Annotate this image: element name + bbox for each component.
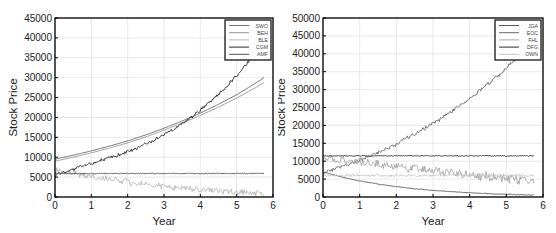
- x-tick-label: 5: [504, 200, 510, 211]
- legend-label: BLE: [258, 37, 268, 43]
- y-tick-label: 30000: [292, 84, 320, 95]
- series-line-dfg: [323, 155, 534, 156]
- x-tick-label: 1: [357, 200, 363, 211]
- x-axis-label: Year: [421, 215, 444, 227]
- y-tick-label: 10000: [24, 152, 52, 163]
- y-tick-label: 5000: [298, 174, 321, 185]
- x-tick-label: 3: [161, 200, 167, 211]
- chart-left: 0123456050001000015000200002500030000350…: [0, 0, 278, 233]
- legend-label: CGM: [256, 44, 268, 50]
- series-line-amf: [55, 173, 264, 174]
- legend-label: BEH: [257, 30, 268, 36]
- x-tick-label: 6: [540, 200, 546, 211]
- x-tick-label: 5: [234, 200, 240, 211]
- y-tick-label: 40000: [292, 48, 320, 59]
- legend-label: JGA: [528, 23, 539, 29]
- y-tick-label: 40000: [24, 32, 52, 43]
- x-axis-label: Year: [152, 215, 175, 227]
- legend: SWOBEHBLECGMAMF: [225, 20, 271, 60]
- y-tick-label: 25000: [292, 102, 320, 113]
- y-tick-label: 20000: [24, 112, 52, 123]
- y-tick-label: 50000: [292, 13, 320, 24]
- legend-label: DFG: [527, 44, 538, 50]
- legend-label: OWN: [525, 51, 538, 57]
- legend-label: FHL: [528, 37, 538, 43]
- y-tick-label: 15000: [24, 132, 52, 143]
- y-tick-label: 25000: [24, 92, 52, 103]
- y-tick-label: 20000: [292, 120, 320, 131]
- series-group: [323, 40, 534, 195]
- x-tick-label: 0: [320, 200, 326, 211]
- legend-label: AMF: [257, 51, 268, 57]
- x-tick-label: 4: [198, 200, 204, 211]
- y-tick-label: 35000: [292, 66, 320, 77]
- chart-right: 0123456050001000015000200002500030000350…: [278, 0, 556, 233]
- y-tick-label: 0: [314, 192, 320, 203]
- y-tick-label: 45000: [292, 30, 320, 41]
- y-tick-label: 10000: [292, 156, 320, 167]
- x-tick-label: 1: [89, 200, 95, 211]
- y-tick-label: 5000: [30, 172, 53, 183]
- y-tick-label: 45000: [24, 13, 52, 24]
- x-tick-label: 2: [125, 200, 131, 211]
- y-tick-label: 15000: [292, 138, 320, 149]
- y-tick-label: 35000: [24, 52, 52, 63]
- legend-label: SWO: [256, 23, 268, 29]
- y-tick-label: 30000: [24, 72, 52, 83]
- series-line-beh: [55, 82, 264, 161]
- x-tick-label: 0: [52, 200, 58, 211]
- x-tick-label: 2: [394, 200, 400, 211]
- x-tick-label: 6: [270, 200, 276, 211]
- series-line-ble: [55, 168, 264, 196]
- y-axis-label: Stock Price: [278, 78, 287, 136]
- x-tick-label: 4: [467, 200, 473, 211]
- y-tick-label: 0: [46, 192, 52, 203]
- legend-label: EOC: [527, 30, 538, 36]
- series-line-swo: [55, 78, 264, 160]
- series-line-own: [323, 174, 534, 177]
- legend: JGAEOCFHLDFGOWN: [495, 20, 541, 60]
- x-tick-label: 3: [430, 200, 436, 211]
- y-axis-label: Stock Price: [7, 78, 19, 136]
